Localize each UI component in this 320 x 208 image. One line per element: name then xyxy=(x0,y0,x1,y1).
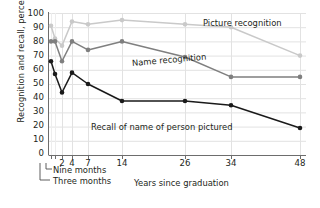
data-point xyxy=(86,22,91,27)
picture-recognition-label: Picture recognition xyxy=(203,18,282,28)
data-point xyxy=(60,90,65,95)
data-point xyxy=(298,75,303,80)
data-point xyxy=(120,39,125,44)
data-point xyxy=(120,99,125,104)
data-point xyxy=(70,19,75,24)
data-point xyxy=(49,23,54,28)
three-months-annotation: Three months xyxy=(53,176,111,186)
chart-figure: Recognition and recall, percent 100 90 8… xyxy=(0,0,320,208)
recall-of-name-label: Recall of name of person pictured xyxy=(91,122,232,132)
data-point xyxy=(70,39,75,44)
x-tick-label: 34 xyxy=(226,159,237,168)
data-point xyxy=(86,82,91,87)
data-point xyxy=(183,22,188,27)
nine-months-leader xyxy=(46,163,52,169)
data-point xyxy=(86,48,91,53)
data-point xyxy=(298,53,303,58)
data-point xyxy=(49,39,54,44)
plot-area xyxy=(0,0,320,208)
data-point xyxy=(60,59,65,64)
data-point xyxy=(70,70,75,75)
data-point xyxy=(229,75,234,80)
data-point xyxy=(53,39,58,44)
three-months-leader xyxy=(40,163,50,180)
x-tick-label: 26 xyxy=(180,159,191,168)
data-point xyxy=(49,59,54,64)
data-point xyxy=(229,103,234,108)
series-layer xyxy=(49,18,303,131)
x-axis-title: Years since graduation xyxy=(134,178,229,188)
data-point xyxy=(60,43,65,48)
x-tick-label: 14 xyxy=(117,159,128,168)
x-tick-label: 48 xyxy=(295,159,306,168)
nine-months-annotation: Nine months xyxy=(53,165,106,175)
data-point xyxy=(120,18,125,23)
data-point xyxy=(183,99,188,104)
data-point xyxy=(53,72,58,77)
data-point xyxy=(298,126,303,131)
